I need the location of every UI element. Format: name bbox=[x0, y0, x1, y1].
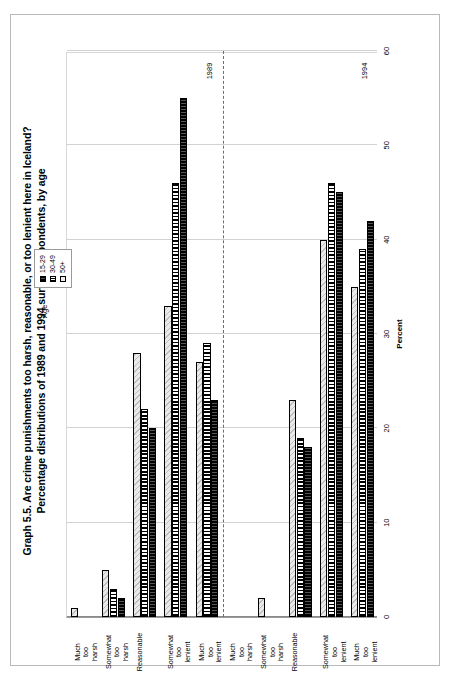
legend-label: 30-49 bbox=[48, 255, 58, 273]
category-label: Muchtoolenient bbox=[198, 619, 224, 680]
chart-title: Graph 5.5. Are crime punishments too har… bbox=[20, 26, 48, 656]
group-year-label-1989: 1989 bbox=[205, 63, 214, 80]
bar-1989-somewhat-too-harsh-50+ bbox=[102, 570, 109, 617]
legend-entry-50+: 50+ bbox=[58, 255, 68, 282]
category-label: Reasonable bbox=[291, 619, 300, 680]
legend-entry-15-29: 15-29 bbox=[38, 255, 48, 282]
bar-1989-much-too-lenient-50+ bbox=[196, 362, 203, 617]
screenshot-frame: Graph 5.5. Are crime punishments too har… bbox=[0, 0, 452, 680]
bar-1989-reasonable-50+ bbox=[133, 353, 140, 617]
bar-1989-much-too-harsh-50+ bbox=[71, 608, 78, 617]
bar-1989-somewhat-too-lenient-15-29 bbox=[180, 98, 187, 617]
bar-1989-much-too-lenient-30-49 bbox=[203, 343, 210, 617]
axis-tick-20: 20 bbox=[382, 424, 391, 432]
category-label: Muchtoolenient bbox=[353, 619, 379, 680]
axis-tick-60: 60 bbox=[382, 47, 391, 55]
category-label: Somewhattoolenient bbox=[322, 619, 348, 680]
category-label: Muchtooharsh bbox=[74, 619, 100, 680]
legend-entry-30-49: 30-49 bbox=[48, 255, 58, 282]
category-label: Somewhattooharsh bbox=[105, 619, 131, 680]
axis-tick-40: 40 bbox=[382, 236, 391, 244]
bar-1989-somewhat-too-harsh-30-49 bbox=[110, 589, 117, 617]
bar-1994-much-too-lenient-30-49 bbox=[359, 249, 366, 617]
legend-title: Age bbox=[40, 305, 49, 318]
axis-tick-30: 30 bbox=[382, 330, 391, 338]
chart-legend: 15-2930-4950+ bbox=[34, 249, 72, 288]
category-label: Reasonable bbox=[136, 619, 145, 680]
bar-1994-somewhat-too-lenient-50+ bbox=[320, 240, 327, 617]
bar-1994-much-too-lenient-50+ bbox=[351, 287, 358, 617]
bar-1994-reasonable-15-29 bbox=[304, 447, 311, 617]
bar-1994-somewhat-too-lenient-15-29 bbox=[336, 193, 343, 618]
group-divider bbox=[223, 51, 224, 617]
category-label: Somewhattoolenient bbox=[167, 619, 193, 680]
chart-title-line-1: Graph 5.5. Are crime punishments too har… bbox=[20, 26, 34, 656]
axis-tick-50: 50 bbox=[382, 141, 391, 149]
bar-1989-somewhat-too-harsh-15-29 bbox=[118, 598, 125, 617]
category-label: Somewhattooharsh bbox=[260, 619, 286, 680]
bar-1994-somewhat-too-lenient-30-49 bbox=[328, 183, 335, 617]
legend-swatch-icon bbox=[50, 276, 56, 282]
bar-1994-somewhat-too-harsh-50+ bbox=[258, 598, 265, 617]
value-axis-title: Percent bbox=[395, 319, 404, 348]
plot-area: 0102030405060PercentMuchtooharshSomewhat… bbox=[66, 52, 377, 618]
axis-tick-10: 10 bbox=[382, 519, 391, 527]
chart-title-line-2: Percentage distributions of 1989 and 199… bbox=[34, 26, 48, 656]
bar-1989-reasonable-30-49 bbox=[141, 409, 148, 617]
bar-1989-much-too-lenient-15-29 bbox=[211, 400, 218, 617]
bar-1989-reasonable-15-29 bbox=[149, 428, 156, 617]
bar-1994-much-too-lenient-15-29 bbox=[367, 221, 374, 617]
bar-1989-somewhat-too-lenient-30-49 bbox=[172, 183, 179, 617]
legend-label: 50+ bbox=[58, 261, 68, 273]
bar-1994-reasonable-50+ bbox=[289, 400, 296, 617]
legend-swatch-icon bbox=[40, 276, 46, 282]
legend-swatch-icon bbox=[60, 276, 66, 282]
axis-tick-0: 0 bbox=[382, 615, 391, 619]
legend-label: 15-29 bbox=[38, 255, 48, 273]
category-label: Muchtooharsh bbox=[229, 619, 255, 680]
chart-page: Graph 5.5. Are crime punishments too har… bbox=[0, 0, 452, 680]
bar-1994-reasonable-30-49 bbox=[297, 438, 304, 617]
group-year-label-1994: 1994 bbox=[360, 63, 369, 80]
bar-1989-somewhat-too-lenient-50+ bbox=[164, 306, 171, 617]
